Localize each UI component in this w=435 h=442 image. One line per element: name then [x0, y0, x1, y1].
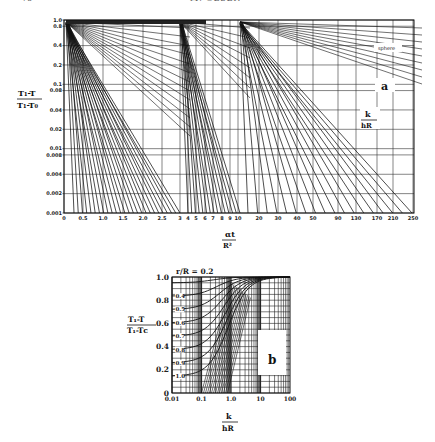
chart-a-ylabel-den: T₁-T₀ — [17, 100, 38, 110]
x-tick-label: 2.0 — [139, 215, 148, 221]
y-tick-label: 0.008 — [46, 152, 62, 158]
chart-b-x-ticks: 0.010.11.010100 — [165, 395, 297, 402]
chart-b-grid — [172, 277, 290, 393]
y-tick-label: 0.02 — [50, 126, 63, 132]
chart-a-param-num: k — [365, 109, 371, 119]
series-label: 0.7 — [176, 333, 186, 339]
series-label: 0.5 — [176, 306, 186, 312]
chart-b-xlabel-num: k — [226, 411, 232, 421]
chart-a-x-ticks: 00.51.01.52.02.5345678910203040509013017… — [62, 215, 418, 221]
x-tick-label: 100 — [284, 395, 297, 402]
series-label: 0.4 — [176, 293, 186, 299]
chart-a-y-ticks: 1.00.80.40.20.10.080.040.020.010.0080.00… — [46, 17, 64, 216]
x-tick-label: 2.5 — [158, 215, 167, 221]
y-tick-label: 1.0 — [156, 273, 169, 282]
y-tick-label: 0.2 — [156, 365, 169, 374]
x-tick-label: 1.0 — [99, 215, 108, 221]
x-tick-label: 20 — [256, 215, 263, 221]
y-tick-label: 0.8 — [53, 23, 62, 29]
y-tick-label: 0.004 — [46, 171, 62, 177]
x-tick-label: 7 — [211, 215, 215, 221]
x-tick-label: 0.01 — [165, 395, 180, 402]
x-tick-label: 3 — [178, 215, 182, 221]
y-tick-label: 1.0 — [53, 17, 62, 23]
y-tick-label: 0.001 — [46, 210, 62, 216]
x-tick-label: 5 — [194, 215, 198, 221]
y-tick-label: 0.04 — [50, 107, 63, 113]
chart-a-ylabel-num: T₁-T — [18, 88, 35, 98]
x-tick-label: 1.0 — [226, 395, 236, 402]
y-tick-label: 0.08 — [50, 87, 63, 93]
chart-b-y-ticks: 1.00.80.60.40.20 — [156, 273, 169, 398]
x-tick-label: 40 — [294, 215, 301, 221]
y-tick-label: 0.4 — [53, 42, 62, 48]
x-tick-label: 0.1 — [196, 395, 206, 402]
chart-b-xlabel-den: hR — [222, 424, 234, 433]
series-label: 1.0 — [176, 373, 186, 379]
x-tick-label: 130 — [351, 215, 362, 221]
x-tick-label: 9 — [228, 215, 232, 221]
y-tick-label: 0.002 — [46, 190, 62, 196]
chart-a-param-den: hR — [361, 121, 372, 130]
x-tick-label: 0 — [62, 215, 66, 221]
series-label: r/R = 0.2 — [176, 267, 213, 276]
x-tick-label: 1.5 — [119, 215, 128, 221]
chart-b-ylabel-den: T₁-Tᴄ — [127, 326, 148, 335]
y-tick-label: 0.01 — [50, 145, 63, 151]
x-tick-label: 250 — [408, 215, 419, 221]
y-tick-label: 0.4 — [156, 342, 169, 351]
x-tick-label: 90 — [335, 215, 342, 221]
x-tick-label: 8 — [220, 215, 224, 221]
x-tick-label: 10 — [256, 395, 264, 402]
series-label: 0.6 — [176, 320, 186, 326]
y-tick-label: 0.6 — [156, 319, 169, 328]
series-label: 0.9 — [176, 360, 186, 366]
chart-b-ylabel-num: T₁-T — [128, 315, 145, 324]
y-tick-label: 0.2 — [53, 62, 62, 68]
y-tick-label: 0.8 — [156, 296, 169, 305]
x-tick-label: 30 — [275, 215, 282, 221]
chart-a-xlabel-den: R² — [223, 241, 232, 250]
series-label: 0.8 — [176, 347, 186, 353]
chart-a-xlabel-num: αt — [225, 229, 235, 239]
y-tick-label: 0.1 — [53, 81, 62, 87]
x-tick-label: 50 — [310, 215, 317, 221]
chart-b: 1.00.80.60.40.20 0.010.11.010100 r/R = 0… — [127, 267, 296, 433]
x-tick-label: 6 — [203, 215, 207, 221]
chart-a: 1.00.80.40.20.10.080.040.020.010.0080.00… — [17, 17, 422, 250]
x-tick-label: 0.5 — [79, 215, 88, 221]
x-tick-label: 170 — [372, 215, 383, 221]
chart-a-panel-label: a — [381, 80, 388, 93]
chart-b-panel-label: b — [268, 353, 276, 367]
figure: 1.00.80.40.20.10.080.040.020.010.0080.00… — [0, 0, 435, 442]
x-tick-label: 210 — [388, 215, 399, 221]
x-tick-label: 10 — [235, 215, 242, 221]
chart-a-annotation: sphere — [378, 45, 395, 52]
x-tick-label: 4 — [186, 215, 190, 221]
